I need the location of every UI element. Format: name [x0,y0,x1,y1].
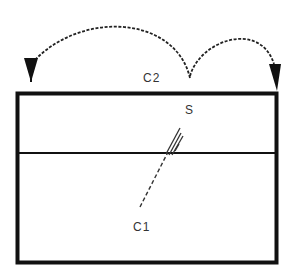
right-arc-arrow [190,39,274,76]
outer-box [18,94,277,263]
right-arrowhead-icon [269,64,281,91]
hatch-marks [166,128,183,155]
label-c1: C1 [133,220,150,234]
label-s: S [185,103,194,117]
label-c2: C2 [143,71,160,85]
crack-dashed-line [140,152,168,207]
left-arc-arrow [32,27,190,78]
